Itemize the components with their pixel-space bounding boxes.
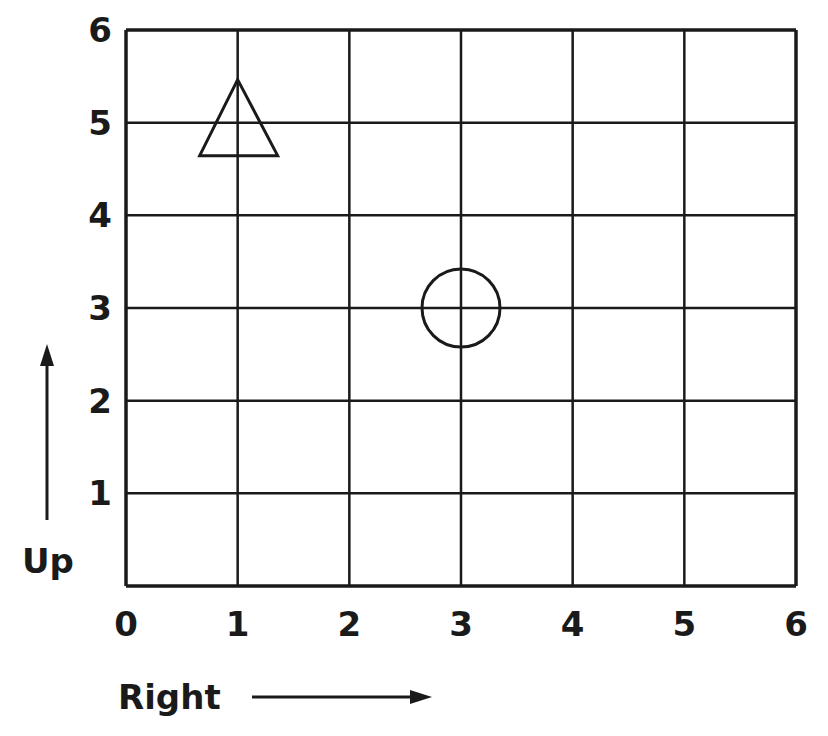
x-tick-label: 2 xyxy=(337,607,361,641)
coordinate-grid-diagram: 0123456 123456 Up Right xyxy=(0,0,828,736)
up-arrow-icon xyxy=(40,344,54,520)
y-tick-label: 3 xyxy=(88,291,112,325)
y-tick-label: 5 xyxy=(88,106,112,140)
y-tick-label: 6 xyxy=(88,13,112,47)
y-tick-label: 4 xyxy=(88,198,112,232)
y-tick-label: 2 xyxy=(88,384,112,418)
y-axis-label: Up xyxy=(22,544,74,578)
y-tick-label: 1 xyxy=(88,476,112,510)
x-tick-label: 3 xyxy=(449,607,473,641)
x-tick-label: 4 xyxy=(561,607,585,641)
grid-lines xyxy=(126,30,796,586)
x-axis-label: Right xyxy=(118,680,221,714)
x-tick-label: 6 xyxy=(784,607,808,641)
right-arrow-icon xyxy=(252,690,432,704)
x-tick-label: 1 xyxy=(226,607,250,641)
x-tick-label: 0 xyxy=(114,607,138,641)
x-tick-label: 5 xyxy=(672,607,696,641)
